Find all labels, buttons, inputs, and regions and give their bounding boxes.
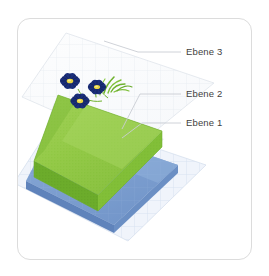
flower-group [60,71,108,111]
layer-ebene-2-body [32,95,164,211]
flower-icon [70,91,89,111]
grass-blades [96,77,132,97]
leader-line-ebene-1 [122,123,181,138]
layer-label-ebene-1: Ebene 1 [186,118,222,128]
layer-ebene-1-plane [18,115,206,241]
leader-line-ebene-3 [104,41,181,52]
leader-lines [104,41,181,138]
flower-icon [60,71,80,92]
layer-label-ebene-2: Ebene 2 [186,89,222,99]
flower-icon [88,78,106,97]
layer-label-ebene-3: Ebene 3 [186,47,222,57]
layers-illustration: Ebene 3 Ebene 2 Ebene 1 [18,19,252,260]
illustration-card: Ebene 3 Ebene 2 Ebene 1 [17,18,252,260]
layer-ebene-1-body [26,123,178,233]
leader-line-ebene-2 [122,94,181,129]
